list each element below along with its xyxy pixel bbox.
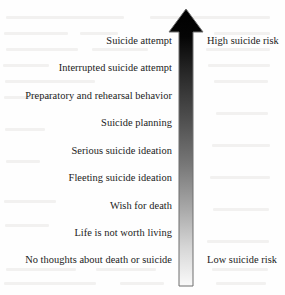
- risk-gradient-arrow: [166, 7, 206, 288]
- stage-label-preparatory-and-rehearsal-behavior: Preparatory and rehearsal behavior: [25, 90, 172, 102]
- risk-label-low: Low suicide risk: [207, 254, 277, 266]
- stage-label-suicide-attempt: Suicide attempt: [106, 35, 172, 47]
- stage-label-no-thoughts-about-death-or-suicide: No thoughts about death or suicide: [25, 254, 172, 266]
- stage-label-wish-for-death: Wish for death: [110, 200, 172, 212]
- stage-label-serious-suicide-ideation: Serious suicide ideation: [72, 145, 172, 157]
- stage-label-fleeting-suicide-ideation: Fleeting suicide ideation: [69, 172, 172, 184]
- stage-label-life-is-not-worth-living: Life is not worth living: [74, 227, 172, 239]
- stage-label-interrupted-suicide-attempt: Interrupted suicide attempt: [59, 62, 172, 74]
- suicide-risk-continuum-figure: Suicide attempt Interrupted suicide atte…: [0, 0, 285, 295]
- risk-label-high: High suicide risk: [207, 35, 279, 47]
- stage-label-suicide-planning: Suicide planning: [101, 117, 172, 129]
